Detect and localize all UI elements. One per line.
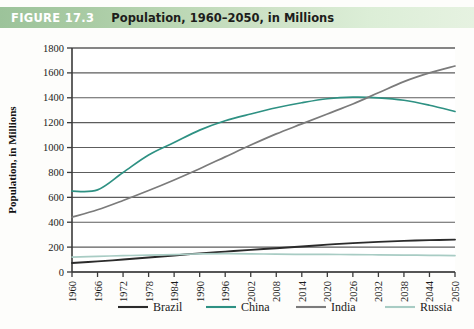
x-tick-label: 2044: [424, 280, 435, 302]
x-tick-label: 1966: [93, 281, 104, 302]
legend-label-china: China: [241, 300, 270, 314]
x-tick-label: 2014: [297, 280, 308, 302]
x-tick-label: 2020: [322, 281, 333, 302]
x-tick-label: 2002: [246, 281, 257, 302]
x-tick-label: 2038: [399, 281, 410, 302]
x-tick-label: 2032: [373, 281, 384, 302]
x-tick-label: 1996: [220, 281, 231, 302]
x-axis-tick-labels: 1960196619721978198419901996200220082014…: [67, 280, 461, 302]
legend-label-india: India: [331, 300, 356, 314]
y-tick-label: 400: [48, 217, 64, 228]
legend-label-brazil: Brazil: [153, 300, 183, 314]
line-chart: 020040060080010001200140016001800 196019…: [0, 28, 474, 329]
chart-svg: 020040060080010001200140016001800 196019…: [0, 28, 474, 329]
x-tick-label: 1972: [118, 281, 129, 302]
plot-background: [72, 48, 455, 272]
legend-label-russia: Russia: [420, 300, 453, 314]
y-tick-label: 200: [48, 242, 64, 253]
y-tick-label: 1800: [43, 43, 64, 54]
x-tick-label: 2026: [348, 281, 359, 302]
figure-header-band: FIGURE 17.3 Population, 1960–2050, in Mi…: [0, 7, 474, 28]
figure-container: FIGURE 17.3 Population, 1960–2050, in Mi…: [0, 0, 474, 329]
y-tick-label: 600: [48, 192, 64, 203]
figure-title: Population, 1960–2050, in Millions: [111, 11, 334, 25]
y-axis-tick-labels: 020040060080010001200140016001800: [43, 43, 64, 278]
x-tick-label: 1984: [169, 280, 180, 302]
x-tick-label: 1978: [144, 281, 155, 302]
y-tick-label: 1400: [43, 92, 64, 103]
y-tick-label: 800: [48, 167, 64, 178]
x-tick-label: 2008: [271, 281, 282, 302]
y-tick-label: 1600: [43, 67, 64, 78]
x-tick-label: 2050: [450, 281, 461, 302]
x-tick-label: 1960: [67, 281, 78, 302]
y-tick-label: 1200: [43, 117, 64, 128]
y-tick-label: 0: [59, 267, 64, 278]
y-axis-label: Population, in Millions: [6, 106, 18, 214]
figure-number-label: FIGURE 17.3: [11, 11, 94, 25]
x-tick-label: 1990: [195, 281, 206, 302]
y-tick-label: 1000: [43, 142, 64, 153]
